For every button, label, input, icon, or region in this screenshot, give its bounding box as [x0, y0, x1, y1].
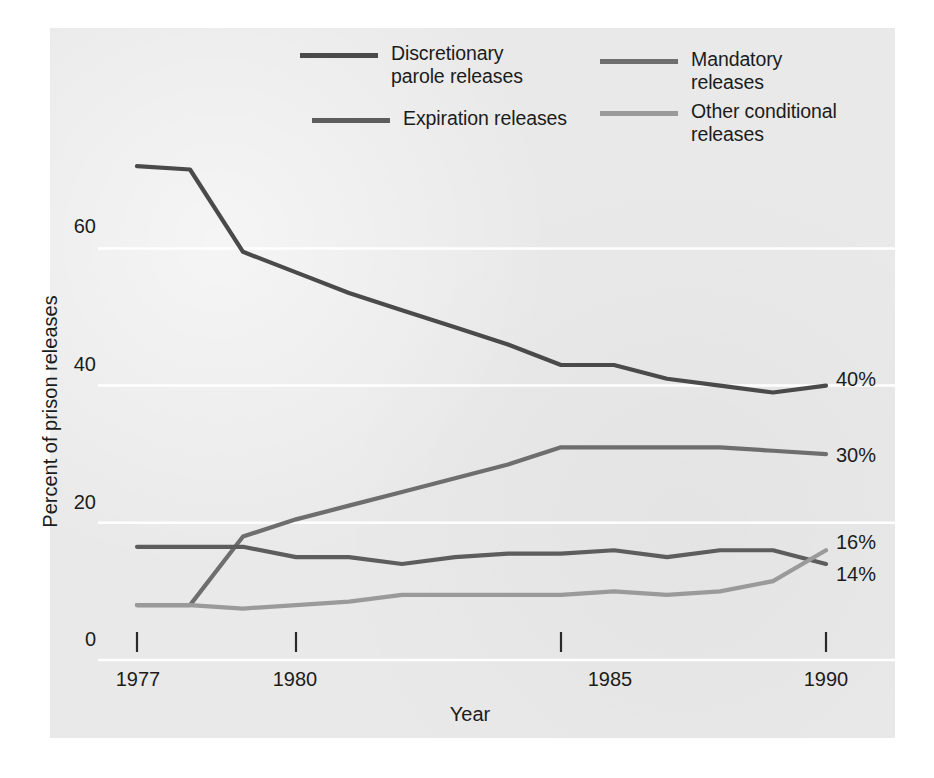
legend-item-discretionary-parole-releases[interactable]: Discretionary parole releases: [300, 42, 523, 88]
series-line-mandatory-releases: [137, 447, 826, 605]
legend-swatch-mandatory-icon: [600, 59, 678, 64]
y-axis-label: Percent of prison releases: [39, 252, 62, 572]
y-axis-tick-0: 0: [52, 628, 96, 651]
series-line-other-conditional-releases: [137, 550, 826, 608]
x-axis-tick-1977: 1977: [98, 668, 178, 691]
legend-label-mandatory: Mandatory releases: [691, 48, 860, 94]
end-label-other-conditional: 16%: [836, 531, 876, 554]
end-label-discretionary: 40%: [836, 368, 876, 391]
legend-item-expiration-releases[interactable]: Expiration releases: [312, 107, 567, 130]
legend-swatch-expiration-icon: [312, 118, 390, 123]
x-axis-label: Year: [400, 703, 540, 726]
legend-swatch-other-conditional-icon: [600, 111, 678, 116]
series-line-discretionary-parole-releases: [137, 166, 826, 392]
x-axis-tick-1985: 1985: [570, 668, 650, 691]
legend-label-discretionary: Discretionary parole releases: [391, 42, 523, 88]
legend-item-other-conditional-releases[interactable]: Other conditional releases: [600, 100, 837, 146]
end-label-expiration: 14%: [836, 563, 876, 586]
legend-label-expiration: Expiration releases: [403, 107, 567, 130]
chart-legend: Discretionary parole releases Mandatory …: [300, 42, 860, 157]
legend-swatch-discretionary-icon: [300, 53, 378, 58]
chart-figure: Discretionary parole releases Mandatory …: [0, 0, 934, 778]
legend-item-mandatory-releases[interactable]: Mandatory releases: [600, 48, 860, 94]
end-label-mandatory: 30%: [836, 444, 876, 467]
x-axis-tick-1990: 1990: [786, 668, 866, 691]
series-line-expiration-releases: [137, 547, 826, 564]
legend-label-other-conditional: Other conditional releases: [691, 100, 837, 146]
y-axis-tick-60: 60: [52, 215, 96, 238]
x-axis-tick-1980: 1980: [255, 668, 335, 691]
